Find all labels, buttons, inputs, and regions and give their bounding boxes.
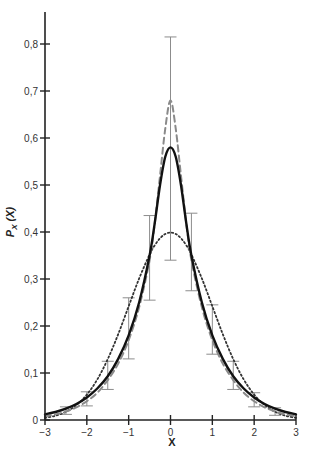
y-tick-label: 0,1 [24, 368, 38, 379]
y-tick-label: 0,8 [24, 39, 38, 50]
y-tick-label: 0,3 [24, 274, 38, 285]
y-tick-label: 0,2 [24, 321, 38, 332]
y-tick-label: 0 [32, 415, 38, 426]
x-axis-title: X [168, 436, 176, 448]
y-ticks: 00,10,20,30,40,50,60,70,8 [24, 39, 50, 426]
svg-text:PX (X): PX (X) [4, 206, 19, 237]
y-tick-label: 0,4 [24, 227, 38, 238]
y-tick-label: 0,5 [24, 180, 38, 191]
y-tick-label: 0,7 [24, 86, 38, 97]
x-tick-label: −1 [123, 427, 135, 438]
x-tick-label: 1 [210, 427, 216, 438]
y-tick-label: 0,6 [24, 133, 38, 144]
x-tick-label: −3 [39, 427, 51, 438]
x-ticks: −3−2−10123 [39, 415, 299, 438]
x-tick-label: 3 [293, 427, 299, 438]
x-tick-label: 2 [251, 427, 257, 438]
y-axis-title-arg: (X) [4, 206, 16, 224]
y-axis-title: PX (X) [4, 206, 19, 237]
error-bars [60, 37, 281, 415]
chart: 00,10,20,30,40,50,60,70,8 −3−2−10123 X P… [0, 0, 310, 457]
x-tick-label: −2 [81, 427, 93, 438]
